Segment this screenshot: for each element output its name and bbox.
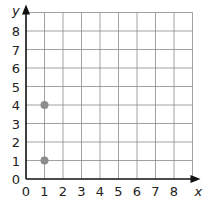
x-tick-label: 1 (40, 184, 48, 199)
x-tick-label: 5 (114, 184, 122, 199)
y-tick-label: 6 (12, 61, 20, 76)
y-tick-label: 1 (12, 154, 20, 169)
x-axis-arrow-icon (191, 175, 201, 183)
x-axis-label: x (194, 184, 203, 199)
x-tick-label: 3 (77, 184, 85, 199)
x-tick-label: 2 (59, 184, 67, 199)
y-axis-arrow-icon (22, 5, 30, 15)
x-tick-label: 4 (96, 184, 104, 199)
y-tick-label: 5 (12, 80, 20, 95)
y-tick-label: 3 (12, 117, 20, 132)
y-axis-label: y (11, 3, 20, 18)
y-tick-label: 2 (12, 135, 20, 150)
data-point (41, 157, 49, 165)
y-tick-label: 8 (12, 24, 20, 39)
x-tick-label: 6 (133, 184, 141, 199)
y-tick-label: 4 (12, 98, 20, 113)
x-tick-label: 7 (151, 184, 159, 199)
x-tick-label: 0 (22, 184, 30, 199)
data-point (41, 101, 49, 109)
x-tick-label: 8 (170, 184, 178, 199)
y-tick-label: 0 (12, 172, 20, 187)
y-tick-label: 7 (12, 43, 20, 58)
coordinate-grid: 012345678012345678xy (0, 0, 203, 202)
